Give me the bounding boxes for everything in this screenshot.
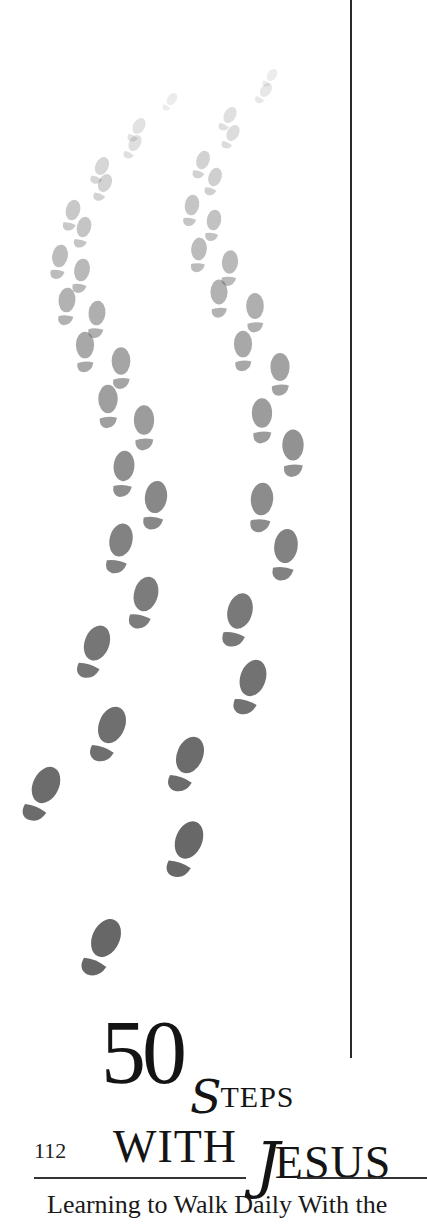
footprint-icon — [181, 193, 201, 227]
footprint-icon — [246, 293, 264, 332]
footprint-icon — [140, 479, 169, 531]
footprint-icon — [112, 347, 131, 389]
footprint-icon — [134, 405, 154, 450]
title-number: 50 — [101, 1008, 183, 1098]
footprint-icon — [210, 279, 227, 317]
footprint-icon — [125, 574, 162, 632]
book-page: 50 STEPS 112 WITH JESUS Learning to Walk… — [0, 0, 427, 1224]
vertical-rule — [350, 0, 352, 1058]
footprint-icon — [162, 817, 209, 882]
footprint-icon — [229, 656, 271, 718]
footprint-icon — [270, 353, 289, 396]
footprint-icon — [248, 482, 275, 534]
title-steps: STEPS — [190, 1064, 295, 1118]
footprint-icon — [86, 300, 106, 339]
footprints-illustration — [0, 0, 360, 1000]
footprint-icon — [98, 385, 118, 429]
footprint-icon — [103, 521, 136, 576]
page-number: 112 — [34, 1138, 66, 1164]
title-with: WITH — [113, 1120, 237, 1173]
horizontal-rule-right — [297, 1177, 427, 1179]
footprint-icon — [85, 703, 131, 767]
footprint-icon — [234, 331, 252, 372]
footprint-icon — [18, 762, 66, 826]
footprint-icon — [163, 733, 209, 797]
title-jesus-rest: ESUS — [275, 1137, 391, 1188]
footprint-icon — [189, 237, 208, 273]
footprint-icon — [70, 257, 91, 294]
footprint-icon — [270, 527, 300, 582]
footprint-icon — [72, 215, 94, 250]
footprint-icon — [121, 133, 144, 161]
horizontal-rule-left — [34, 1177, 246, 1179]
footprint-icon — [202, 166, 224, 198]
subtitle: Learning to Walk Daily With the — [47, 1190, 387, 1220]
footprint-icon — [160, 91, 179, 113]
footprint-icon — [73, 622, 115, 682]
title-steps-initial: S — [190, 1070, 223, 1124]
footprint-icon — [48, 243, 69, 280]
footprint-icon — [56, 287, 76, 326]
footprint-icon — [252, 398, 272, 443]
footprint-icon — [218, 590, 256, 650]
title-steps-rest: TEPS — [221, 1080, 295, 1113]
footprint-icon — [203, 208, 223, 242]
footprint-icon — [282, 429, 303, 477]
footprint-icon — [76, 914, 126, 981]
title-jesus: JESUS — [255, 1120, 391, 1193]
footprint-icon — [76, 332, 94, 373]
footprint-icon — [111, 450, 136, 498]
